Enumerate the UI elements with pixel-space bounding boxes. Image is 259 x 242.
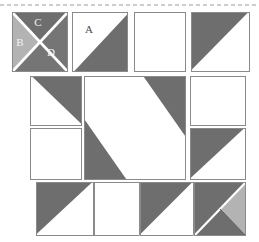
block-left-upper-hst [30,76,82,126]
block-bottom-hst-1 [36,182,94,236]
quilt-block-diagram: ABCD [0,0,259,242]
block-right-upper-plain [190,76,246,126]
patch-label-c: C [34,16,41,28]
patch-label-b: B [16,36,23,48]
quilt-diagram-canvas: ABCD [0,0,259,242]
block-center-diagonal-band [84,76,186,180]
block-right-lower-hst [190,128,246,180]
block-bottom-plain [94,182,140,236]
block-plain-white [134,12,186,72]
block-left-lower-plain [30,128,82,180]
block-half-square-mirror [191,12,250,72]
block-half-square-a [72,12,128,72]
block-bottom-hst-2 [140,182,194,236]
patch-label-d: D [47,46,55,58]
block-bottom-corner-accent [194,182,246,236]
patch-label-a: A [85,23,93,35]
